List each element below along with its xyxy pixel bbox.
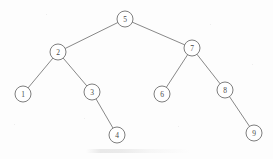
tree-edge (63, 58, 87, 86)
node-label: 4 (115, 131, 119, 140)
tree-edge (229, 97, 249, 127)
tree-node-5: 5 (117, 11, 133, 27)
tree-edge (96, 99, 113, 128)
tree-node-9: 9 (246, 125, 262, 141)
tree-edge (65, 23, 118, 49)
tree-diagram-canvas: 527136849 (0, 0, 273, 159)
tree-node-3: 3 (84, 84, 100, 100)
node-label: 5 (123, 15, 127, 24)
node-label: 7 (190, 44, 194, 53)
edge-layer (28, 22, 249, 128)
tree-node-8: 8 (217, 82, 233, 98)
node-label: 3 (90, 88, 94, 97)
tree-node-1: 1 (15, 86, 31, 102)
node-label: 2 (56, 48, 60, 57)
node-label: 6 (160, 90, 164, 99)
node-layer: 527136849 (15, 11, 262, 143)
node-label: 9 (252, 129, 256, 138)
tree-edge (28, 58, 53, 88)
tree-node-7: 7 (184, 40, 200, 56)
tree-node-4: 4 (109, 127, 125, 143)
tree-edge (197, 54, 220, 83)
tree-node-2: 2 (50, 44, 66, 60)
tree-edge (166, 55, 187, 88)
tree-edge (132, 22, 184, 45)
node-label: 1 (21, 90, 25, 99)
node-label: 8 (223, 86, 227, 95)
tree-node-6: 6 (154, 86, 170, 102)
binary-search-tree-figure: 527136849 (0, 0, 273, 159)
